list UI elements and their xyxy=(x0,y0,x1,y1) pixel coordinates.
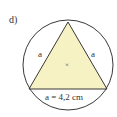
side-label-right: a xyxy=(91,50,95,59)
center-marker: × xyxy=(65,62,69,69)
base-label: a = 4,2 cm xyxy=(45,93,83,102)
side-label-left: a xyxy=(38,50,42,59)
